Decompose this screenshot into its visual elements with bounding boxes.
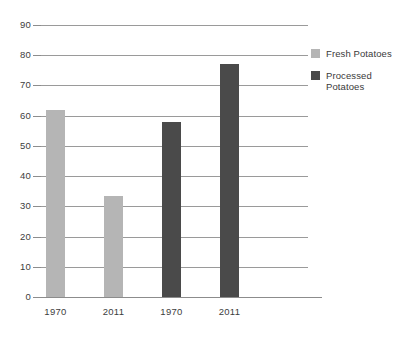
legend-swatch-processed-icon — [311, 71, 320, 80]
x-axis-label-0: 1970 — [26, 306, 86, 317]
y-tick-0 — [33, 297, 41, 298]
y-axis-label-wrap-50: 50 — [0, 141, 31, 142]
legend-label-fresh: Fresh Potatoes — [326, 48, 392, 60]
y-axis-label-50: 50 — [1, 141, 31, 151]
y-axis-label-wrap-90: 90 — [0, 20, 31, 21]
y-axis-label-30: 30 — [1, 201, 31, 211]
y-tick-70 — [33, 85, 41, 86]
y-axis-label-wrap-60: 60 — [0, 111, 31, 112]
gridline-90 — [40, 25, 308, 26]
gridline-0 — [40, 297, 322, 298]
bar-fresh-potatoes-2011 — [104, 196, 123, 297]
y-axis-label-wrap-70: 70 — [0, 80, 31, 81]
gridline-60 — [40, 116, 308, 117]
y-axis-label-10: 10 — [1, 262, 31, 272]
gridline-80 — [40, 55, 308, 56]
y-tick-20 — [33, 237, 41, 238]
y-axis-label-wrap-20: 20 — [0, 232, 31, 233]
y-axis-label-wrap-10: 10 — [0, 262, 31, 263]
chart-legend: Fresh Potatoes Processed Potatoes — [311, 48, 409, 103]
y-tick-60 — [33, 116, 41, 117]
legend-item-processed: Processed Potatoes — [311, 70, 409, 93]
y-axis-label-wrap-40: 40 — [0, 171, 31, 172]
y-axis-label-wrap-80: 80 — [0, 50, 31, 51]
y-tick-30 — [33, 206, 41, 207]
bar-chart: 0102030405060708090 1970201119702011 Fre… — [0, 0, 412, 337]
y-tick-10 — [33, 267, 41, 268]
bar-processed-potatoes-1970 — [162, 122, 181, 297]
y-tick-90 — [33, 25, 41, 26]
y-axis-label-70: 70 — [1, 80, 31, 90]
y-axis-label-60: 60 — [1, 111, 31, 121]
y-tick-40 — [33, 176, 41, 177]
y-axis-label-20: 20 — [1, 232, 31, 242]
legend-swatch-fresh-icon — [311, 49, 320, 58]
x-axis-label-3: 2011 — [200, 306, 260, 317]
y-axis-label-wrap-30: 30 — [0, 201, 31, 202]
legend-label-processed: Processed Potatoes — [326, 70, 409, 93]
y-tick-50 — [33, 146, 41, 147]
bar-processed-potatoes-2011 — [220, 64, 239, 297]
legend-item-fresh: Fresh Potatoes — [311, 48, 409, 60]
y-axis-label-40: 40 — [1, 171, 31, 181]
x-axis-label-2: 1970 — [142, 306, 202, 317]
y-axis-label-0: 0 — [1, 292, 31, 302]
y-axis-label-90: 90 — [1, 20, 31, 30]
y-tick-80 — [33, 55, 41, 56]
y-axis-label-80: 80 — [1, 50, 31, 60]
y-axis-label-wrap-0: 0 — [0, 292, 31, 293]
bar-fresh-potatoes-1970 — [46, 110, 65, 297]
gridline-70 — [40, 85, 308, 86]
x-axis-label-1: 2011 — [84, 306, 144, 317]
